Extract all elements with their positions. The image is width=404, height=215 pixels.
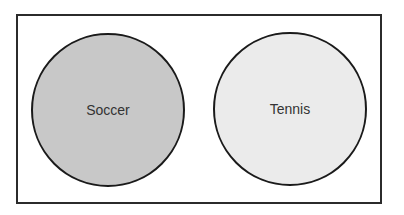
set-tennis: Tennis: [214, 33, 366, 185]
tennis-label: Tennis: [270, 101, 310, 117]
set-soccer: Soccer: [32, 34, 184, 186]
soccer-label: Soccer: [86, 102, 130, 118]
venn-diagram: Soccer Tennis: [0, 0, 404, 215]
